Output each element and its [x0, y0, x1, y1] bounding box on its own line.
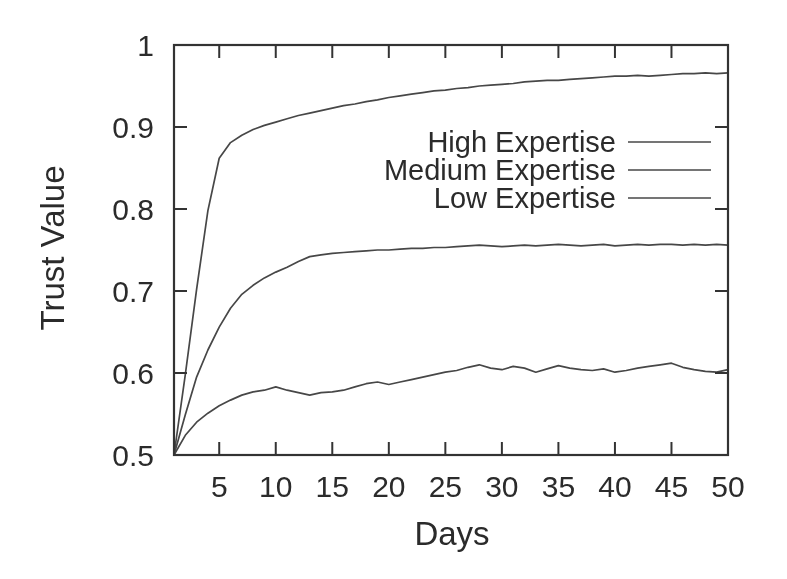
x-tick-label: 5: [211, 470, 228, 503]
x-tick-label: 45: [655, 470, 688, 503]
x-tick-label: 50: [711, 470, 744, 503]
y-tick-label: 1: [137, 29, 154, 62]
series-line-low-expertise: [174, 363, 728, 455]
legend: High Expertise Medium Expertise Low Expe…: [384, 126, 711, 214]
x-tick-label: 15: [316, 470, 349, 503]
series-line-medium-expertise: [174, 244, 728, 455]
x-tick-label: 10: [259, 470, 292, 503]
y-tick-label: 0.5: [112, 439, 154, 472]
plot-border: [174, 45, 728, 455]
y-tick-label: 0.6: [112, 357, 154, 390]
x-tick-label: 20: [372, 470, 405, 503]
trust-line-chart: 510152025303540455010.90.80.70.60.5 High…: [0, 0, 787, 579]
x-tick-label: 25: [429, 470, 462, 503]
x-tick-label: 30: [485, 470, 518, 503]
y-tick-label: 0.9: [112, 111, 154, 144]
trust-vs-days-figure: 510152025303540455010.90.80.70.60.5 High…: [0, 0, 787, 579]
x-tick-label: 35: [542, 470, 575, 503]
y-tick-label: 0.7: [112, 275, 154, 308]
x-axis-title: Days: [414, 515, 489, 552]
y-axis-title: Trust Value: [34, 165, 71, 330]
x-tick-label: 40: [598, 470, 631, 503]
legend-label-low-expertise: Low Expertise: [434, 182, 616, 214]
y-tick-label: 0.8: [112, 193, 154, 226]
axes-layer: 510152025303540455010.90.80.70.60.5: [112, 29, 744, 503]
